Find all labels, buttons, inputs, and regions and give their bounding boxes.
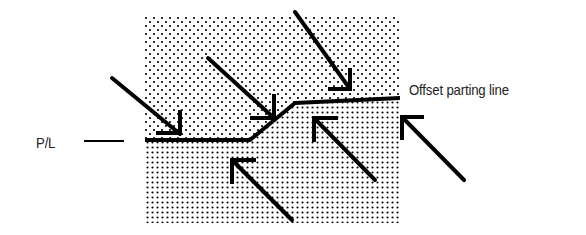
offset-parting-line-label: Offset parting line: [409, 81, 509, 98]
parting-line-label: P/L: [36, 134, 55, 151]
arrow-up-3-icon: [402, 117, 464, 180]
offset-parting-line-diagram: [0, 0, 586, 235]
